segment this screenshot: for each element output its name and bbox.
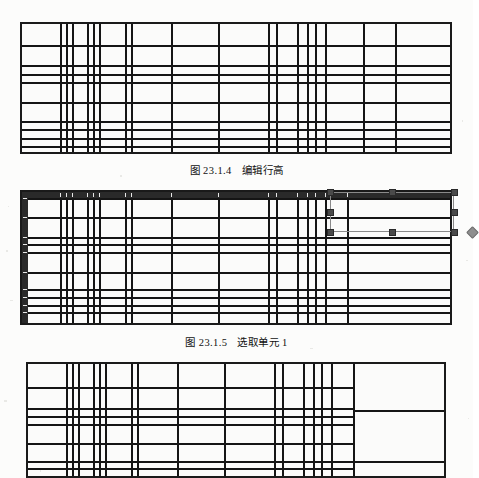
selection-handle-middle-right[interactable] <box>451 209 458 216</box>
column-header-tick <box>131 193 132 197</box>
scan-artifact <box>4 400 7 402</box>
figure-caption-1: 图 23.1.4编辑行高 <box>0 162 473 177</box>
selection-handle-top-right[interactable] <box>451 189 458 196</box>
scan-artifact <box>466 260 468 261</box>
grid-row-divider <box>22 297 450 299</box>
column-header-tick <box>72 193 73 197</box>
grid-column-divider <box>72 24 74 152</box>
grid-column-divider <box>395 24 397 152</box>
grid-row-divider <box>22 252 450 254</box>
grid-column-divider <box>66 24 68 152</box>
grid-column-divider <box>105 364 107 476</box>
scan-artifact <box>6 250 8 252</box>
column-header-tick <box>307 193 308 197</box>
row-header-tick <box>23 323 27 324</box>
spreadsheet-grid-figure-3[interactable] <box>26 362 446 478</box>
row-header-tick <box>23 305 27 306</box>
grid-column-divider <box>297 192 299 323</box>
grid-row-divider <box>22 244 450 246</box>
grid-column-divider <box>321 364 323 476</box>
grid-column-divider <box>131 192 133 323</box>
selection-handle-bottom-center[interactable] <box>389 229 396 236</box>
selection-handle-bottom-right[interactable] <box>451 229 458 236</box>
selection-outline[interactable] <box>330 192 454 232</box>
figure-caption-2-number: 图 23.1.5 <box>185 337 227 348</box>
grid-column-divider <box>315 192 317 323</box>
grid-row-divider <box>22 65 450 67</box>
selection-handle-middle-left[interactable] <box>327 209 334 216</box>
grid-row-divider <box>22 129 450 131</box>
merged-cell-divider <box>355 410 444 412</box>
column-header-tick <box>315 193 316 197</box>
grid-column-divider <box>268 24 270 152</box>
grid-column-divider <box>60 24 62 152</box>
grid-column-divider <box>72 192 74 323</box>
grid-column-divider <box>224 364 226 476</box>
grid-column-divider <box>131 364 133 476</box>
selection-handle-top-left[interactable] <box>327 189 334 196</box>
grid-column-divider <box>72 364 74 476</box>
grid-row-divider <box>22 272 450 274</box>
scan-artifact <box>462 120 463 122</box>
grid-column-divider <box>307 24 309 152</box>
grid-column-divider <box>282 364 284 476</box>
grid-row-divider <box>22 138 450 140</box>
scan-artifact <box>120 175 122 177</box>
figure-caption-1-title: 编辑行高 <box>242 165 284 176</box>
column-header-tick <box>99 193 100 197</box>
row-header-tick <box>23 312 27 313</box>
grid-column-divider <box>93 192 95 323</box>
merged-cell-divider <box>355 461 444 463</box>
column-header-tick <box>171 193 172 197</box>
grid-column-divider <box>331 364 333 476</box>
grid-column-divider <box>268 192 270 323</box>
grid-column-divider <box>325 24 327 152</box>
spreadsheet-grid-figure-1[interactable] <box>20 22 452 154</box>
column-header-tick <box>66 193 67 197</box>
row-header-strip[interactable] <box>22 192 28 323</box>
grid-column-divider <box>297 24 299 152</box>
grid-column-divider <box>315 24 317 152</box>
row-header-tick <box>23 297 27 298</box>
grid-column-divider <box>87 24 89 152</box>
grid-column-divider <box>87 192 89 323</box>
grid-row-divider <box>22 312 450 314</box>
grid-row-divider <box>22 45 450 47</box>
grid-column-divider <box>99 364 101 476</box>
grid-column-divider <box>93 364 95 476</box>
row-header-tick <box>23 217 27 218</box>
column-header-tick <box>268 193 269 197</box>
grid-row-divider <box>22 305 450 307</box>
grid-column-divider <box>171 192 173 323</box>
row-header-tick <box>23 272 27 273</box>
scan-artifact <box>40 470 41 472</box>
selection-handle-bottom-left[interactable] <box>327 229 334 236</box>
row-header-tick <box>23 237 27 238</box>
grid-column-divider <box>125 192 127 323</box>
cell-selection-overlay[interactable] <box>330 192 454 232</box>
grid-column-divider <box>137 364 139 476</box>
column-header-tick <box>297 193 298 197</box>
figure-caption-2-title: 选取单元 1 <box>237 337 287 348</box>
row-header-tick <box>23 244 27 245</box>
scan-artifact <box>310 348 313 349</box>
grid-column-divider <box>307 192 309 323</box>
scan-artifact <box>468 418 469 419</box>
grid-column-divider <box>78 364 80 476</box>
grid-column-divider <box>125 24 127 152</box>
selection-handle-top-center[interactable] <box>389 189 396 196</box>
grid-row-divider <box>22 74 450 76</box>
grid-row-divider <box>22 289 450 291</box>
grid-column-divider <box>131 24 133 152</box>
column-header-tick <box>60 193 61 197</box>
column-header-tick <box>125 193 126 197</box>
column-header-tick <box>87 193 88 197</box>
figure-caption-2: 图 23.1.5选取单元 1 <box>0 334 473 349</box>
grid-row-divider <box>22 237 450 239</box>
grid-column-divider <box>363 24 365 152</box>
figure-caption-1-number: 图 23.1.4 <box>190 165 232 176</box>
grid-column-divider <box>276 24 278 152</box>
grid-column-divider <box>218 192 220 323</box>
row-header-tick <box>23 252 27 253</box>
grid-row-divider <box>22 82 450 84</box>
